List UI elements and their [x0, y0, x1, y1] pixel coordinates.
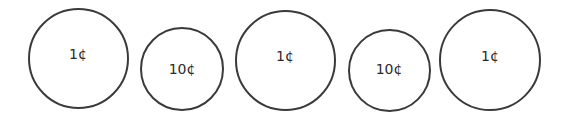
coin-label: 1¢: [237, 48, 334, 64]
coin-label: 10¢: [142, 61, 222, 77]
coin-label: 1¢: [30, 46, 127, 62]
coin-1-cent: 1¢: [28, 8, 129, 109]
coin-10-cent: 10¢: [348, 29, 431, 112]
coin-1-cent: 1¢: [235, 10, 336, 111]
coin-label: 1¢: [441, 48, 539, 64]
coin-1-cent: 1¢: [439, 9, 541, 111]
coin-label: 10¢: [350, 61, 429, 77]
coin-10-cent: 10¢: [140, 27, 224, 111]
